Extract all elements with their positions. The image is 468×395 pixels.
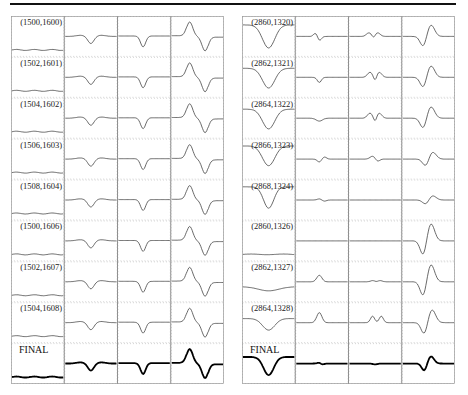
- waveform-line: [65, 199, 116, 207]
- subplot-cell: [118, 98, 170, 138]
- waveform-line: [243, 357, 294, 375]
- waveform-line: [65, 240, 116, 248]
- waveform-line: [350, 316, 401, 323]
- row-coordinate-label: (2866,1323): [243, 140, 293, 150]
- waveform-line: [65, 76, 116, 84]
- waveform-line: [403, 310, 454, 333]
- waveform-line: [403, 357, 454, 371]
- left-plot-svg: [11, 16, 224, 384]
- waveform-line: [350, 156, 401, 161]
- row-coordinate-label: (2864,1328): [243, 303, 293, 313]
- final-row-label: FINAL: [250, 344, 300, 355]
- row-coordinate-label: (1508,1604): [12, 181, 62, 191]
- waveform-line: [119, 118, 170, 129]
- waveform-line: [65, 322, 116, 330]
- waveform-line: [65, 362, 116, 370]
- row-coordinate-label: (1506,1603): [12, 140, 62, 150]
- right-plot-grid: (2860,1320)(2862,1321)(2864,1322)(2866,1…: [242, 16, 455, 384]
- left-plot-grid: (1500,1600)(1502,1601)(1504,1602)(1506,1…: [11, 16, 224, 384]
- waveform-line: [243, 68, 294, 88]
- row-coordinate-label: (1504,1608): [12, 303, 62, 313]
- waveform-line: [172, 186, 223, 215]
- waveform-line: [296, 118, 347, 121]
- waveform-line: [12, 213, 63, 214]
- waveform-line: [296, 199, 347, 201]
- row-coordinate-label: (2862,1327): [243, 262, 293, 272]
- row-coordinate-label: (1502,1607): [12, 262, 62, 272]
- waveform-line: [403, 224, 454, 254]
- subplot-cell: [118, 17, 170, 57]
- waveform-line: [12, 336, 63, 337]
- waveform-line: [119, 36, 170, 47]
- waveform-line: [12, 172, 63, 173]
- row-coordinate-label: (1504,1602): [12, 99, 62, 109]
- waveform-line: [119, 241, 170, 252]
- waveform-line: [296, 275, 347, 282]
- waveform-line: [65, 117, 116, 125]
- waveform-line: [172, 226, 223, 255]
- waveform-line: [119, 363, 170, 374]
- waveform-line: [12, 295, 63, 296]
- waveform-line: [296, 157, 347, 162]
- waveform-line: [403, 107, 454, 127]
- waveform-line: [172, 22, 223, 51]
- row-coordinate-label: (2860,1320): [243, 17, 293, 27]
- waveform-line: [243, 25, 294, 48]
- waveform-line: [172, 145, 223, 174]
- row-coordinate-label: (2860,1326): [243, 221, 293, 231]
- final-row-label: FINAL: [19, 344, 69, 355]
- waveform-line: [119, 322, 170, 333]
- subplot-cell: [118, 303, 170, 343]
- row-coordinate-label: (2868,1324): [243, 181, 293, 191]
- waveform-line: [172, 267, 223, 296]
- top-rule: [10, 3, 456, 5]
- subplot-cell: [118, 139, 170, 179]
- waveform-line: [296, 313, 347, 323]
- waveform-line: [65, 35, 116, 43]
- waveform-line: [172, 63, 223, 92]
- waveform-line: [12, 254, 63, 255]
- waveform-line: [350, 33, 401, 37]
- waveform-line: [172, 349, 223, 378]
- waveform-line: [296, 34, 347, 41]
- row-coordinate-label: (1502,1601): [12, 58, 62, 68]
- waveform-line: [12, 90, 63, 91]
- waveform-line: [12, 49, 63, 50]
- row-coordinate-label: (1500,1600): [12, 17, 62, 27]
- waveform-line: [403, 153, 454, 166]
- row-coordinate-label: (2862,1321): [243, 58, 293, 68]
- waveform-line: [296, 363, 347, 365]
- waveform-line: [350, 281, 401, 282]
- waveform-line: [403, 265, 454, 295]
- waveform-line: [12, 131, 63, 132]
- waveform-line: [65, 158, 116, 166]
- right-plot-svg: [242, 16, 455, 384]
- waveform-line: [296, 77, 347, 82]
- waveform-line: [243, 287, 294, 291]
- row-coordinate-label: (2864,1322): [243, 99, 293, 109]
- subplot-cell: [118, 57, 170, 97]
- waveform-line: [403, 25, 454, 45]
- waveform-line: [243, 254, 294, 255]
- waveform-line: [12, 377, 63, 378]
- waveform-line: [119, 200, 170, 211]
- waveform-line: [243, 109, 294, 129]
- waveform-line: [119, 159, 170, 170]
- waveform-line: [350, 72, 401, 79]
- waveform-line: [350, 113, 401, 120]
- waveform-line: [65, 281, 116, 289]
- waveform-line: [119, 77, 170, 88]
- subplot-cell: [118, 262, 170, 302]
- waveform-line: [350, 364, 401, 365]
- waveform-line: [172, 104, 223, 133]
- waveform-line: [403, 196, 454, 204]
- row-coordinate-label: (1500,1606): [12, 221, 62, 231]
- waveform-line: [403, 66, 454, 86]
- waveform-line: [243, 319, 294, 331]
- waveform-line: [119, 281, 170, 292]
- waveform-line: [172, 308, 223, 337]
